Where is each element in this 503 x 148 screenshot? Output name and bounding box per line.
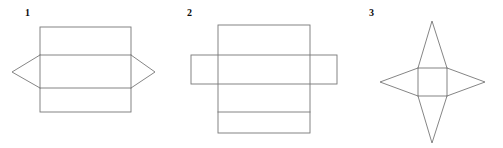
figure-3-top-triangle — [418, 21, 447, 68]
net-figure-3 — [0, 0, 503, 148]
figure-3-left-triangle — [380, 68, 418, 96]
figure-3-square — [418, 68, 447, 96]
figure-3-label: 3 — [369, 8, 374, 18]
figure-3-right-triangle — [447, 68, 485, 96]
figure-1-label: 1 — [25, 8, 30, 18]
figure-2-label: 2 — [187, 8, 192, 18]
figure-canvas: 1 2 3 — [0, 0, 503, 148]
figure-3-bottom-triangle — [418, 96, 447, 143]
